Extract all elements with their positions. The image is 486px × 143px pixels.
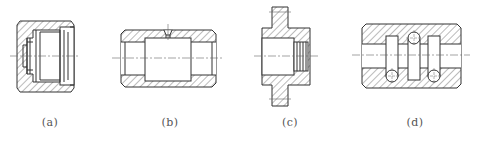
panel-label-a: (a): [30, 116, 70, 129]
drawing-c: [254, 7, 318, 106]
panel-label-d: (d): [395, 116, 435, 129]
drawing-b: [112, 24, 224, 87]
drawing-d: [352, 24, 470, 88]
panel-label-b: (b): [150, 116, 190, 129]
drawing-a: [10, 21, 80, 92]
panel-label-c: (c): [270, 116, 310, 129]
